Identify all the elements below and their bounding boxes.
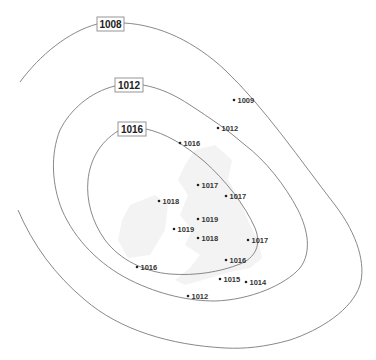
isobar-label-1008: 1008 [99, 19, 122, 30]
station-value: 1018 [202, 234, 219, 243]
station-point: 1009 [233, 96, 254, 105]
station-value: 1015 [224, 275, 241, 284]
isobar-1008-upper-left-line [20, 24, 97, 82]
station-point: 1016 [136, 263, 157, 272]
station-dot-icon [247, 239, 250, 242]
station-dot-icon [136, 266, 139, 269]
station-dot-icon [173, 228, 176, 231]
station-dot-icon [197, 218, 200, 221]
station-dot-icon [197, 237, 200, 240]
isobar-label-1012: 1012 [118, 80, 141, 91]
station-dot-icon [245, 281, 248, 284]
station-value: 1009 [238, 96, 255, 105]
station-dot-icon [233, 99, 236, 102]
station-value: 1019 [202, 215, 219, 224]
station-dot-icon [187, 295, 190, 298]
station-value: 1017 [230, 192, 247, 201]
ireland-landmass [118, 195, 168, 258]
station-dot-icon [225, 259, 228, 262]
pressure-map: 1008 1012 1016 1009 1012 1 [0, 0, 376, 360]
station-dot-icon [225, 195, 228, 198]
station-value: 1012 [192, 292, 209, 301]
station-dot-icon [197, 184, 200, 187]
station-value: 1017 [202, 181, 219, 190]
station-value: 1014 [250, 278, 268, 287]
station-value: 1019 [178, 225, 195, 234]
station-dot-icon [179, 142, 182, 145]
station-point: 1016 [179, 139, 200, 148]
station-point: 1014 [245, 278, 267, 287]
station-point: 1019 [173, 225, 194, 234]
station-dot-icon [158, 200, 161, 203]
station-value: 1016 [184, 139, 201, 148]
station-value: 1016 [141, 263, 158, 272]
isobar-1012: 1012 [53, 78, 307, 301]
isobar-chart: 1008 1012 1016 1009 1012 1 [0, 0, 376, 360]
station-dot-icon [219, 278, 222, 281]
isobar-1012-line [53, 85, 307, 301]
station-value: 1016 [230, 256, 247, 265]
station-value: 1012 [222, 124, 239, 133]
isobar-label-1016: 1016 [121, 124, 144, 135]
station-point: 1015 [219, 275, 240, 284]
station-dot-icon [217, 127, 220, 130]
station-value: 1017 [252, 236, 269, 245]
station-value: 1018 [163, 197, 180, 206]
